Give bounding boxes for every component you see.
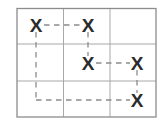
x-marker-r1c1[interactable]: X [30, 15, 43, 36]
grid-diagram: X X X X X [0, 0, 166, 127]
x-marker-r1c2[interactable]: X [82, 15, 95, 36]
grid-cell-r3c2[interactable] [64, 81, 111, 117]
grid-cell-r1c3[interactable] [110, 9, 156, 45]
grid-cell-r3c1[interactable] [17, 81, 64, 117]
grid-cell-r2c1[interactable] [17, 44, 64, 81]
diagram-canvas: X X X X X [0, 0, 166, 127]
x-marker-r3c3[interactable]: X [131, 90, 144, 111]
x-marker-r2c3[interactable]: X [131, 53, 144, 74]
x-marker-r2c2[interactable]: X [82, 53, 95, 74]
